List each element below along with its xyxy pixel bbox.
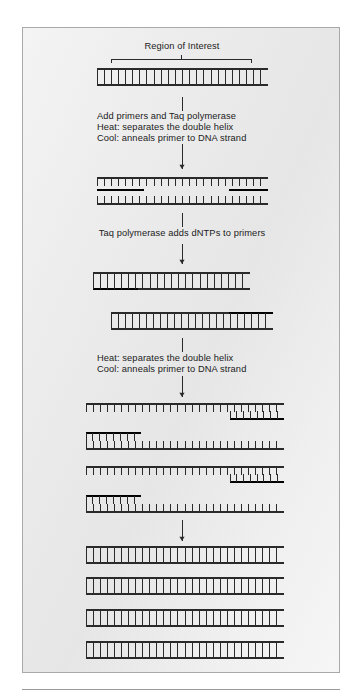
s3b-top [111,313,273,321]
s3a-top [93,273,250,281]
cap-region: Region of Interest [144,41,219,53]
region-of-interest-bracket [111,55,251,63]
bracket-group [111,55,251,63]
connector-group [179,97,184,541]
stage-2-denatured-primed [97,178,268,204]
stage-5-four-duplexes [86,547,284,658]
c2-arrow-arrowhead [179,260,184,264]
s1-bottom [97,77,268,85]
s5-2-bottom-base-pair-ticks [86,586,277,594]
s3b-bottom [111,321,273,329]
s2-bottom [97,196,268,204]
cap-step3-1: Heat: separates the double helix [97,353,233,365]
s5-2-top-base-pair-ticks [86,578,277,586]
cap-step1-2: Heat: separates the double helix [97,122,233,134]
s2-bottom-base-pair-ticks [97,196,261,204]
s4-3-top-base-pair-ticks [86,467,277,475]
s5-4-bottom-base-pair-ticks [86,650,277,658]
s1-bottom-base-pair-ticks [97,77,261,85]
stage-1-template-duplex [97,69,268,85]
s5-1-bottom-base-pair-ticks [86,555,277,563]
s5-1-bottom [86,555,284,563]
s4-4-bottom [86,504,284,512]
s5-3-bottom [86,618,284,626]
s4-1-top [86,404,284,412]
s4-2-bottom-base-pair-ticks [86,441,277,449]
s5-4-bottom [86,650,284,658]
s5-2-bottom [86,586,284,594]
s3a-bottom [93,281,250,289]
c3-arrow-arrowhead [179,393,184,397]
s5-4-top [86,642,284,650]
s5-3-top [86,610,284,618]
s5-1-top-base-pair-ticks [86,547,277,555]
c3-arrow [179,376,184,397]
cap-step1-3: Cool: anneals primer to DNA strand [97,133,246,145]
s4-4-bottom-base-pair-ticks [86,504,277,512]
s1-top-base-pair-ticks [97,69,261,77]
s5-3-bottom-base-pair-ticks [86,618,277,626]
cap-step3-2: Cool: anneals primer to DNA strand [97,364,246,376]
s4-1-top-base-pair-ticks [86,404,277,412]
c1-arrow [179,144,184,169]
s5-2-top [86,578,284,586]
s4-3-top [86,467,284,475]
s2-top [97,178,268,186]
s3a-top-base-pair-ticks [93,273,243,281]
s4-4-primer [86,496,141,504]
cap-step1-1: Add primers and Taq polymerase [97,111,236,123]
diagram-stack: Region of InterestAdd primers and Taq po… [23,28,340,673]
s4-1-primer [230,411,284,419]
c4-arrow [179,520,184,541]
s2-top-base-pair-ticks [97,178,261,186]
s5-1-top [86,547,284,555]
s3b-bottom-base-pair-ticks [111,321,266,329]
s4-2-bottom [86,441,284,449]
s4-2-primer [86,433,141,441]
cap-step2-1: Taq polymerase adds dNTPs to primers [99,228,266,240]
s1-top [97,69,268,77]
c4-arrow-arrowhead [179,537,184,541]
stage-4-four-primed-strands [86,404,284,512]
c2-arrow [179,244,184,264]
stage-3-extended-duplexes [93,273,273,329]
bottom-divider-rule [22,689,340,690]
s5-3-top-base-pair-ticks [86,610,277,618]
c1-arrow-arrowhead [179,165,184,169]
s5-4-top-base-pair-ticks [86,642,277,650]
pcr-figure-panel: Region of InterestAdd primers and Taq po… [22,27,340,673]
s4-3-primer [230,474,284,482]
